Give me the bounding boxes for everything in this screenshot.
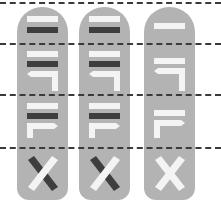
l-arrow-right-icon xyxy=(89,123,120,138)
dark-bar-icon xyxy=(89,113,120,119)
dark-bar-icon xyxy=(27,61,58,67)
light-bar-icon xyxy=(27,103,58,109)
column-2-pill xyxy=(79,7,130,200)
light-bar-icon xyxy=(154,58,185,64)
l-arrow-right-icon xyxy=(27,123,58,138)
column-1-pill xyxy=(17,7,68,200)
dashed-line-2 xyxy=(0,43,221,45)
light-bar-icon xyxy=(154,110,185,116)
column-2-glyphs xyxy=(79,7,130,200)
light-bar-icon xyxy=(89,103,120,109)
dashed-line-3 xyxy=(0,94,221,96)
light-bar-icon xyxy=(27,16,58,22)
dark-bar-icon xyxy=(27,113,58,119)
column-1-glyphs xyxy=(17,7,68,200)
light-bar-icon xyxy=(154,23,185,29)
l-arrow-right-icon xyxy=(154,120,185,138)
light-bar-icon xyxy=(89,51,120,57)
light-bar-icon xyxy=(27,51,58,57)
light-bar-icon xyxy=(89,16,120,22)
column-3-glyphs xyxy=(144,7,195,200)
dashed-line-1 xyxy=(0,2,221,4)
dark-bar-icon xyxy=(27,27,58,33)
l-arrow-left-icon xyxy=(89,71,120,91)
dark-bar-icon xyxy=(89,27,120,33)
l-arrow-left-icon xyxy=(27,71,58,91)
column-3-pill xyxy=(144,7,195,200)
dark-bar-icon xyxy=(89,61,120,67)
l-arrow-left-icon xyxy=(154,68,185,91)
dashed-line-4 xyxy=(0,147,221,149)
